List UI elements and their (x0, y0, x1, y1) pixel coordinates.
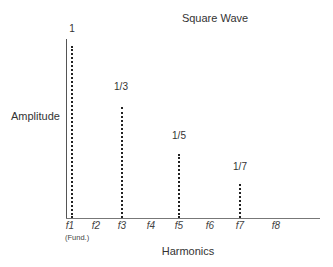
x-axis-label: Harmonics (162, 245, 215, 257)
tick-f7: f7 (236, 220, 244, 231)
tick-f1: f1 (66, 220, 74, 231)
tick-f3: f3 (118, 220, 126, 231)
y-axis-label: Amplitude (11, 110, 60, 122)
value-label-f1: 1 (69, 23, 75, 34)
tick-f5: f5 (175, 220, 183, 231)
bar-f1 (71, 46, 73, 218)
tick-f2: f2 (92, 220, 100, 231)
tick-f6: f6 (206, 220, 214, 231)
value-label-f3: 1/3 (114, 81, 128, 92)
bar-f7 (239, 184, 241, 218)
fundamental-note: (Fund.) (65, 233, 89, 242)
y-axis (66, 39, 67, 219)
chart-title: Square Wave (182, 12, 248, 24)
tick-f4: f4 (147, 220, 155, 231)
bar-f3 (121, 107, 123, 218)
bar-f5 (178, 154, 180, 218)
value-label-f7: 1/7 (233, 161, 247, 172)
tick-f8: f8 (272, 220, 280, 231)
x-axis (66, 218, 320, 219)
value-label-f5: 1/5 (172, 130, 186, 141)
